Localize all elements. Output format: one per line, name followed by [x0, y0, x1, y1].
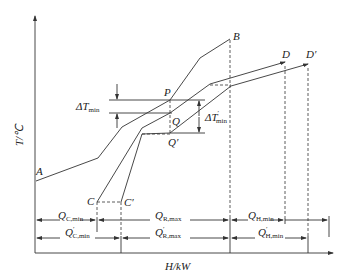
delta-t-min-prime-label: ΔT′min	[204, 109, 227, 125]
q-r-max-label: QR,max	[155, 209, 182, 223]
delta-t-reference-lines	[109, 100, 205, 133]
point-labels: A B C C′ D D′ P Q Q′	[35, 30, 317, 208]
y-axis-label: T/℃	[13, 123, 25, 146]
hot-composite-curve	[36, 39, 230, 181]
label-B: B	[233, 30, 240, 42]
cold-composite-curve	[97, 62, 285, 202]
q-h-min-label: QH,min	[248, 209, 274, 223]
dimension-row-2: Q′C,min Q′R,max Q′H,min	[37, 225, 306, 240]
dimension-row-1: QC,min QR,max QH,min	[37, 209, 327, 223]
q-h-min-prime-label: Q′H,min	[258, 225, 284, 240]
delta-t-min-marker: ΔTmin	[75, 84, 117, 128]
composite-curve-diagram: T/℃ H/kW ΔTmin	[0, 0, 341, 275]
delta-t-min-label: ΔTmin	[75, 100, 100, 114]
q-c-min-label: QC,min	[58, 209, 84, 223]
label-D: D	[281, 48, 290, 60]
label-D-prime: D′	[305, 48, 317, 60]
label-C: C	[87, 195, 95, 207]
delta-t-min-prime-marker: ΔT′min	[199, 101, 227, 132]
label-P: P	[163, 86, 171, 98]
dimension-ticks	[97, 216, 329, 253]
label-A: A	[35, 165, 43, 177]
shifted-cold-composite-curve	[121, 64, 308, 202]
label-C-prime: C′	[124, 196, 134, 208]
q-c-min-prime-label: Q′C,min	[65, 225, 90, 240]
label-Q-prime: Q′	[168, 136, 179, 148]
q-r-max-prime-label: Q′R,max	[155, 225, 181, 240]
x-axis-label: H/kW	[164, 260, 191, 272]
label-Q: Q	[172, 115, 180, 127]
